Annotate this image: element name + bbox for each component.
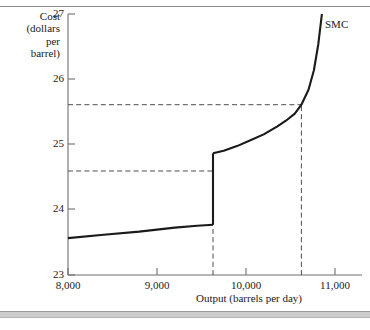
x-axis-ticks: [68, 268, 335, 275]
figure-bottom-band-inner: [0, 317, 370, 330]
x-tick-label-10000: 10,000: [221, 279, 271, 291]
y-tick-label-26: 26: [42, 72, 64, 84]
y-tick-label-24: 24: [42, 202, 64, 214]
figure-container: Cost(dollarsperbarrel) Output (barrels p…: [0, 0, 370, 330]
smc-segment-lower: [68, 225, 213, 238]
y-axis-title-line-4: barrel): [31, 47, 60, 59]
x-tick-label-11000: 11,000: [310, 279, 360, 291]
x-tick-label-9000: 9,000: [132, 279, 182, 291]
series-label-smc: SMC: [325, 18, 348, 30]
y-axis-ticks: [68, 14, 75, 275]
y-tick-label-27: 27: [42, 7, 64, 19]
y-axis-title-line-3: per: [46, 35, 60, 47]
y-axis-title-line-2: (dollars: [26, 22, 60, 34]
smc-segment-upper: [213, 14, 322, 153]
x-axis-title: Output (barrels per day): [196, 292, 302, 304]
y-tick-label-25: 25: [42, 137, 64, 149]
x-tick-label-8000: 8,000: [43, 279, 93, 291]
